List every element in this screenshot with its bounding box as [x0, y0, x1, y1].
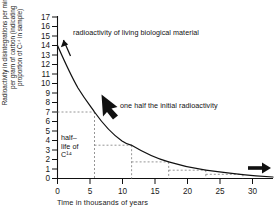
svg-text:11: 11	[42, 70, 51, 79]
svg-text:2: 2	[45, 155, 50, 164]
svg-text:3: 3	[45, 146, 50, 155]
arrow-living-material-icon	[61, 40, 71, 56]
svg-text:16: 16	[41, 22, 51, 31]
svg-text:25: 25	[215, 187, 225, 196]
svg-text:6: 6	[45, 117, 50, 126]
decay-curve	[58, 46, 274, 178]
arrow-one-half-icon	[102, 95, 119, 120]
svg-text:20: 20	[183, 187, 193, 196]
svg-text:8: 8	[45, 98, 50, 107]
svg-text:5: 5	[45, 127, 50, 136]
svg-text:0: 0	[55, 187, 60, 196]
svg-text:12: 12	[41, 60, 51, 69]
figure-radiocarbon-decay: Radioactivity in disintegrations per min…	[0, 0, 280, 220]
svg-text:14: 14	[41, 41, 51, 50]
svg-text:9: 9	[45, 89, 50, 98]
arrow-tail-right-icon	[248, 163, 271, 174]
svg-text:30: 30	[248, 187, 258, 196]
svg-text:0: 0	[45, 174, 50, 183]
annotation-one-half: one half the initial radioactivity	[120, 101, 218, 110]
svg-text:1: 1	[45, 165, 50, 174]
y-tick-labels: 0 1 2 3 4 5 6 7 8 9 10 11 12 13 14 15 16…	[41, 13, 51, 184]
x-tick-labels: 0 5 10 15 20 25 30	[55, 187, 257, 196]
x-axis-label: Time in thousands of years	[57, 198, 148, 207]
svg-text:13: 13	[41, 51, 51, 60]
svg-text:10: 10	[41, 79, 51, 88]
svg-text:15: 15	[150, 187, 160, 196]
annotation-living-material: radioactivity of living biological mater…	[73, 28, 199, 37]
y-axis-ticks	[52, 17, 58, 179]
svg-text:5: 5	[88, 187, 93, 196]
axis-lines	[57, 16, 273, 179]
svg-text:4: 4	[45, 136, 50, 145]
svg-text:15: 15	[41, 32, 51, 41]
svg-text:10: 10	[118, 187, 128, 196]
guide-lines-halving	[58, 112, 243, 179]
svg-text:17: 17	[41, 13, 51, 22]
x-axis-ticks	[58, 179, 253, 185]
annotation-half-life: half– life of C¹⁴	[61, 134, 79, 160]
svg-text:7: 7	[45, 108, 50, 117]
y-axis-label: Radioactivity in disintegrations per min…	[1, 0, 24, 135]
